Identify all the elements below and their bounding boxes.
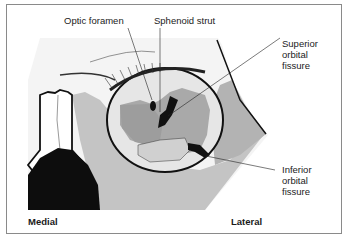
orbit-illustration: [0, 0, 345, 240]
optic-foramen-shape: [150, 101, 156, 111]
label-superior-line2: orbital: [282, 49, 318, 60]
label-superior-line1: Superior: [282, 38, 318, 49]
label-superior-line3: fissure: [282, 60, 318, 71]
label-inferior-line2: orbital: [282, 175, 312, 186]
label-inferior-line3: fissure: [282, 186, 312, 197]
label-inferior-line1: Inferior: [282, 164, 312, 175]
label-superior-orbital-fissure: Superior orbital fissure: [282, 38, 318, 71]
label-inferior-orbital-fissure: Inferior orbital fissure: [282, 164, 312, 197]
label-optic-foramen: Optic foramen: [64, 15, 124, 26]
label-lateral: Lateral: [231, 216, 262, 227]
label-sphenoid-strut: Sphenoid strut: [154, 15, 215, 26]
label-medial: Medial: [28, 216, 58, 227]
